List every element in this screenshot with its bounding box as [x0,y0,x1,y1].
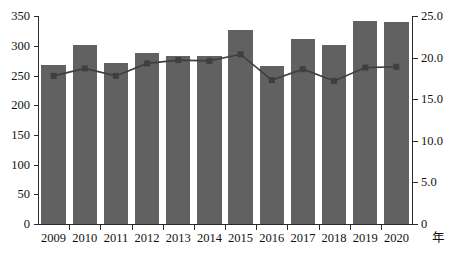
line-path [54,54,397,81]
line-marker [269,77,275,83]
line-marker [362,65,368,71]
line-marker [82,65,88,71]
line-markers [51,51,400,84]
line-series [0,0,457,259]
line-marker [300,66,306,72]
x-axis-unit-label: 年 [432,232,445,245]
line-marker [51,73,57,79]
line-marker [175,57,181,63]
line-marker [206,58,212,64]
line-marker [331,78,337,84]
line-marker [144,60,150,66]
line-marker [113,73,119,79]
line-marker [393,64,399,70]
chart-container: 0 50 100 150 200 250 300 350 0 5.0 10.0 … [0,0,457,259]
line-marker [238,51,244,57]
